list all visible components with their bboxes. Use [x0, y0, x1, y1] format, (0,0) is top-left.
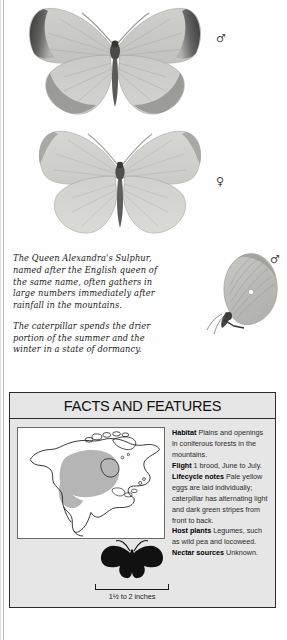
range-map [17, 427, 165, 539]
fact-habitat: Habitat Plains and openings in coniferou… [172, 428, 268, 461]
caption-paragraph-2: The caterpillar spends the drier portion… [13, 321, 165, 356]
sex-symbol-female-1: ♀ [216, 176, 224, 187]
specimen-female-dorsal: ♀ [30, 126, 210, 238]
size-indicator: 1½ to 2 inches [72, 539, 192, 601]
butterfly-silhouette-icon [94, 539, 170, 583]
fact-host-plants-label: Host plants [172, 526, 211, 535]
fact-flight-value: 1 brood, June to July. [194, 461, 262, 470]
species-caption: The Queen Alexandra's Sulphur, named aft… [13, 253, 165, 365]
scale-bar [95, 584, 169, 590]
facts-panel-title: FACTS AND FEATURES [10, 393, 275, 419]
page-edge-rule [0, 0, 1, 640]
caption-paragraph-1: The Queen Alexandra's Sulphur, named aft… [13, 253, 165, 312]
field-guide-page: ♂ [0, 0, 287, 640]
sex-symbol-male-2: ♂ [270, 254, 280, 265]
butterfly-male-dorsal-icon [20, 3, 210, 121]
fact-habitat-label: Habitat [172, 428, 196, 437]
fact-lifecycle: Lifecycle notes Pale yellow eggs are lai… [172, 472, 268, 527]
sex-symbol-male-1: ♂ [216, 33, 226, 44]
specimen-male-ventral: ♂ [204, 248, 282, 340]
fact-nectar-value: Unknown. [226, 548, 258, 557]
fact-flight-label: Flight [172, 461, 192, 470]
north-america-map-icon [18, 428, 164, 538]
butterfly-female-dorsal-icon [30, 126, 210, 238]
page-gutter-rule [3, 0, 4, 640]
fact-flight: Flight 1 brood, June to July. [172, 461, 268, 472]
size-range-label: 1½ to 2 inches [72, 592, 192, 601]
fact-lifecycle-label: Lifecycle notes [172, 472, 224, 481]
specimen-male-dorsal: ♂ [20, 3, 210, 121]
facts-and-features-panel: FACTS AND FEATURES [9, 392, 276, 608]
